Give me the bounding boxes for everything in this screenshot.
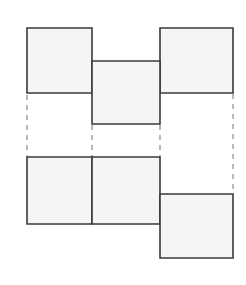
face-bottom-left	[27, 157, 92, 224]
net-diagram	[0, 0, 246, 285]
face-bottom-right	[160, 194, 233, 258]
face-bottom-middle	[92, 157, 160, 224]
diagram-canvas	[0, 0, 246, 285]
face-top-right	[160, 28, 233, 93]
face-top-left	[27, 28, 92, 93]
face-top-middle	[92, 61, 160, 124]
